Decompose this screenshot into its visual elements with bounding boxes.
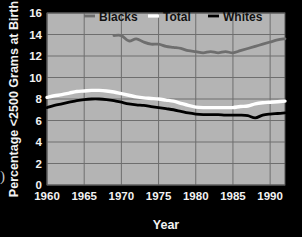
- y-tick-label: 14: [29, 29, 42, 41]
- y-tick-label: 16: [29, 7, 42, 19]
- y-tick-label: 4: [36, 136, 43, 148]
- x-tick-label: 1960: [34, 190, 60, 202]
- x-tick-label: 1980: [183, 190, 209, 202]
- x-axis-title: Year: [153, 218, 180, 232]
- x-tick-label: 1975: [146, 190, 172, 202]
- legend-label-whites: Whites: [223, 10, 263, 24]
- figure-container: ) 1614121086420 196019651970197519801985…: [0, 0, 302, 237]
- y-tick-label: 6: [36, 115, 42, 127]
- legend-label-total: Total: [163, 10, 191, 24]
- y-axis-tick-labels: 1614121086420: [29, 7, 42, 191]
- x-tick-label: 1985: [220, 190, 246, 202]
- y-tick-label: 8: [36, 93, 43, 105]
- legend-label-blacks: Blacks: [99, 10, 138, 24]
- y-tick-label: 10: [29, 72, 42, 84]
- x-tick-label: 1990: [257, 190, 283, 202]
- y-tick-label: 2: [36, 158, 42, 170]
- x-tick-label: 1970: [109, 190, 135, 202]
- x-tick-label: 1965: [71, 190, 97, 202]
- y-axis-title: Percentage <2500 Grams at Birth: [7, 1, 21, 197]
- x-axis-tick-labels: 1960196519701975198019851990: [34, 190, 283, 202]
- y-tick-label: 12: [29, 50, 42, 62]
- chart-legend: BlacksTotalWhites: [84, 10, 263, 24]
- line-chart: 1614121086420 19601965197019751980198519…: [0, 0, 302, 237]
